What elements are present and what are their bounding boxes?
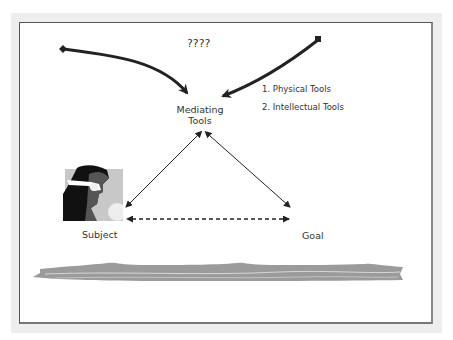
left-curved-arrow	[59, 45, 187, 93]
tool-type-intellectual: 2. Intellectual Tools	[262, 102, 344, 113]
diamond-marker-icon	[59, 45, 67, 53]
goal-label: Goal	[302, 230, 324, 241]
question-label: ????	[187, 38, 210, 49]
river-band-icon	[33, 263, 403, 281]
tools-goal-arrow	[209, 135, 290, 207]
square-marker-icon	[315, 36, 321, 42]
tool-type-physical: 1. Physical Tools	[262, 84, 331, 95]
person-with-goggles-icon	[63, 164, 123, 221]
mediating-tools-line1: Mediating	[172, 104, 228, 115]
subject-label: Subject	[82, 229, 118, 240]
mediating-tools-line2: Tools	[172, 115, 228, 126]
mediating-tools-label: Mediating Tools	[172, 104, 228, 126]
tools-subject-arrow	[126, 135, 198, 207]
